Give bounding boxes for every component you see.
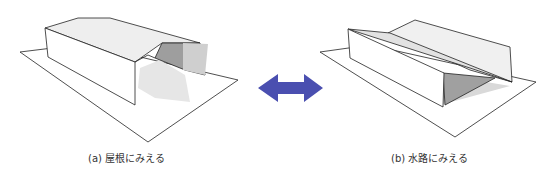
caption-panel-a: (a) 屋根にみえる [88, 150, 165, 165]
caption-panel-b: (b) 水路にみえる [391, 150, 468, 165]
panel-b-figure [320, 20, 536, 137]
inner-light-face-a [183, 43, 208, 75]
panel-a-figure [20, 18, 238, 142]
illustration [0, 0, 551, 170]
double-headed-arrow-icon [258, 74, 323, 102]
